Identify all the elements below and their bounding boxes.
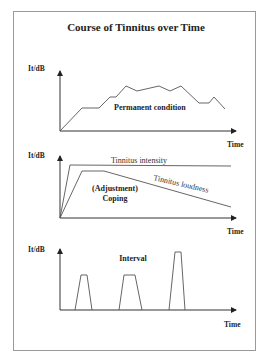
loudness-label: Tinnitus loudness: [153, 173, 210, 194]
panel-interval: It/dB Interval Time: [28, 245, 241, 329]
interval-label: Interval: [119, 254, 147, 263]
episode-3: [169, 252, 185, 310]
intensity-label: Tinnitus intensity: [111, 156, 167, 165]
episode-1: [75, 275, 92, 310]
adjustment-label: (Adjustment): [92, 184, 138, 193]
y-axis-label: It/dB: [28, 245, 45, 254]
loudness-curve: [60, 171, 231, 218]
y-axis-label: It/dB: [28, 151, 45, 160]
panel-permanent-condition: It/dB Permanent condition Time: [28, 64, 244, 149]
figure-title: Course of Tinnitus over Time: [67, 21, 205, 33]
tinnitus-diagram: Course of Tinnitus over Time It/dB Perma…: [0, 0, 275, 360]
x-axis-label: Time: [227, 227, 244, 236]
y-axis-label: It/dB: [28, 64, 45, 73]
permanent-condition-label: Permanent condition: [114, 103, 186, 112]
x-axis-label: Time: [224, 320, 241, 329]
panel-coping: It/dB Tinnitus intensity Tinnitus loudne…: [28, 151, 244, 236]
episode-2: [119, 275, 142, 310]
x-axis-label: Time: [227, 140, 244, 149]
coping-label: Coping: [103, 194, 128, 203]
